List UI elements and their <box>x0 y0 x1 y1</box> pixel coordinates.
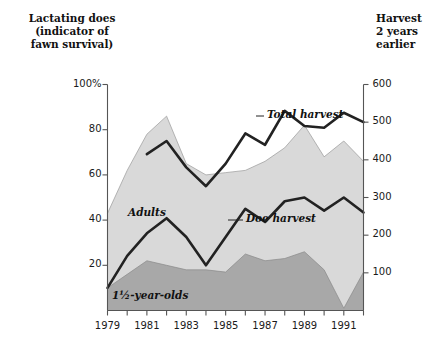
left-tick-label-0: 100% <box>62 78 102 89</box>
x-tick-label-4: 1987 <box>243 320 287 331</box>
right-tick-label-0: 600 <box>373 78 413 89</box>
left-tick-label-3: 40 <box>62 213 102 224</box>
axis-left-ticks <box>103 85 108 266</box>
x-tick-label-3: 1985 <box>204 320 248 331</box>
right-tick-label-3: 300 <box>373 191 413 202</box>
x-tick-label-5: 1989 <box>282 320 326 331</box>
x-tick-label-1: 1981 <box>125 320 169 331</box>
x-tick-label-0: 1979 <box>86 320 130 331</box>
right-tick-label-4: 200 <box>373 228 413 239</box>
left-tick-label-2: 60 <box>62 168 102 179</box>
right-tick-label-2: 400 <box>373 153 413 164</box>
left-tick-label-1: 80 <box>62 123 102 134</box>
series-label-doe-harvest: Doe harvest <box>246 212 316 224</box>
axis-right-ticks <box>364 85 369 273</box>
right-tick-label-5: 100 <box>373 266 413 277</box>
chart-figure: Lactating does (indicator of fawn surviv… <box>0 0 436 343</box>
left-tick-label-4: 20 <box>62 258 102 269</box>
series-label-adults: Adults <box>128 206 166 218</box>
x-tick-label-6: 1991 <box>322 320 366 331</box>
series-label-total-harvest: Total harvest <box>267 108 343 120</box>
x-tick-label-2: 1983 <box>164 320 208 331</box>
series-label-yearlings: 1½-year-olds <box>112 289 188 301</box>
right-tick-label-1: 500 <box>373 115 413 126</box>
axis-bottom-ticks <box>108 311 364 316</box>
